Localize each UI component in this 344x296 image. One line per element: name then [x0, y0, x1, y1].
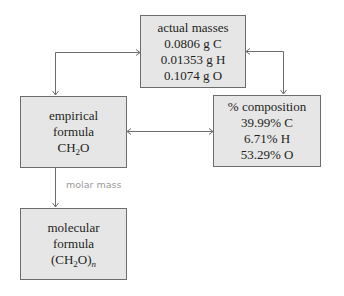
actual-masses-box: actual masses 0.0806 g C 0.01353 g H 0.1… — [140, 15, 246, 88]
actual-masses-carbon: 0.0806 g C — [164, 36, 221, 52]
connector-actual-to-empirical — [56, 53, 141, 96]
molecular-formula-value: (CH2O)n — [51, 252, 96, 268]
actual-masses-title: actual masses — [157, 20, 228, 36]
empirical-title-line1: empirical — [49, 108, 98, 124]
molecular-title-line1: molecular — [48, 220, 100, 236]
connector-actual-to-composition — [246, 52, 284, 95]
molecular-formula-box: molecular formula (CH2O)n — [20, 208, 127, 280]
percent-composition-box: % composition 39.99% C 6.71% H 53.29% O — [213, 95, 321, 167]
composition-hydrogen: 6.71% H — [244, 131, 290, 147]
composition-carbon: 39.99% C — [241, 115, 293, 131]
actual-masses-oxygen: 0.1074 g O — [164, 68, 222, 84]
empirical-formula-value: CH2O — [58, 140, 90, 156]
actual-masses-hydrogen: 0.01353 g H — [161, 52, 226, 68]
composition-title: % composition — [228, 99, 306, 115]
molar-mass-edge-label: molar mass — [66, 179, 121, 190]
composition-oxygen: 53.29% O — [241, 147, 294, 163]
empirical-title-line2: formula — [53, 124, 94, 140]
empirical-formula-box: empirical formula CH2O — [20, 96, 127, 168]
molecular-title-line2: formula — [53, 236, 94, 252]
